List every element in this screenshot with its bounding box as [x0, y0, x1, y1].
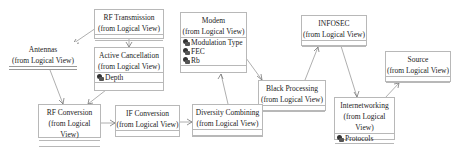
edge-black-processing-to-infosec — [305, 47, 319, 80]
operations-compartment — [193, 135, 262, 136]
edge-if-conversion-to-diversity-combining — [180, 119, 192, 125]
edge-internetworking-to-source — [385, 83, 399, 98]
operations-compartment — [39, 146, 100, 147]
class-diversity-combining[interactable]: Diversity Combining (from Logical View) — [192, 104, 263, 137]
edge-modem-to-black-processing — [246, 58, 262, 80]
class-active-cancellation[interactable]: Active Cancellation (from Logical View) … — [94, 47, 164, 91]
class-modem[interactable]: Modem (from Logical View) Modulation Typ… — [180, 12, 247, 73]
class-name: INFOSEC — [302, 16, 366, 29]
class-package: (from Logical View) — [302, 29, 366, 40]
class-name: RF Conversion — [39, 105, 100, 118]
operations-compartment — [302, 46, 366, 47]
class-name: Diversity Combining — [193, 105, 262, 118]
class-package: (from Logical View) — [259, 94, 325, 105]
edge-active-cancellation-to-rf-conversion — [88, 90, 106, 104]
class-name: Modem — [181, 13, 246, 26]
class-package: (from Logical View) — [95, 61, 163, 72]
operations-compartment — [95, 40, 163, 41]
attribute-row[interactable]: Rb — [183, 56, 246, 65]
attribute-icon — [183, 57, 190, 64]
attribute-label: Protocols — [345, 133, 373, 144]
edge-infosec-to-internetworking — [341, 46, 359, 97]
class-name: Antennas — [9, 42, 77, 55]
attributes-compartment: Protocols — [335, 133, 394, 143]
class-name: IF Conversion — [116, 106, 179, 119]
class-package: (from Logical View) — [335, 111, 394, 133]
class-name: Source — [386, 52, 450, 65]
attribute-icon — [183, 48, 190, 55]
class-source[interactable]: Source (from Logical View) — [385, 51, 451, 82]
attribute-row[interactable]: Protocols — [337, 134, 394, 143]
attributes-compartment: Modulation Type FEC Rb — [181, 37, 246, 65]
operations-compartment — [386, 82, 450, 83]
class-package: (from Logical View) — [9, 55, 77, 66]
class-infosec[interactable]: INFOSEC (from Logical View) — [301, 15, 367, 46]
edge-diversity-combining-to-modem — [218, 74, 228, 104]
operations-compartment — [9, 69, 77, 70]
attribute-label: Depth — [105, 72, 123, 83]
attribute-icon — [337, 135, 344, 142]
class-name: Internetworking — [335, 98, 394, 111]
attribute-label: Rb — [191, 55, 200, 66]
edge-antennas-to-rf-conversion — [50, 70, 64, 104]
attribute-icon — [183, 39, 190, 46]
class-name: RF Transmission — [95, 10, 163, 23]
class-package: (from Logical View) — [386, 65, 450, 76]
class-if-conversion[interactable]: IF Conversion (from Logical View) — [115, 105, 180, 137]
edge-rf-conversion-to-if-conversion — [100, 120, 115, 126]
class-rf-transmission[interactable]: RF Transmission (from Logical View) — [94, 9, 164, 39]
class-black-processing[interactable]: Black Processing (from Logical View) — [258, 80, 326, 111]
attributes-compartment: Depth — [95, 72, 163, 82]
operations-compartment — [116, 136, 179, 137]
class-rf-conversion[interactable]: RF Conversion (from Logical View) — [38, 104, 101, 138]
class-antennas[interactable]: Antennas (from Logical View) — [9, 42, 77, 70]
class-package: (from Logical View) — [95, 23, 163, 34]
attribute-row[interactable]: Depth — [97, 73, 163, 82]
class-name: Active Cancellation — [95, 48, 163, 61]
class-package: (from Logical View) — [181, 26, 246, 37]
attribute-icon — [97, 74, 104, 81]
class-name: Black Processing — [259, 81, 325, 94]
operations-compartment — [259, 111, 325, 112]
class-package: (from Logical View) — [193, 118, 262, 129]
class-internetworking[interactable]: Internetworking (from Logical View) Prot… — [334, 97, 395, 140]
class-package: (from Logical View) — [116, 119, 179, 130]
class-package: (from Logical View) — [39, 118, 100, 140]
